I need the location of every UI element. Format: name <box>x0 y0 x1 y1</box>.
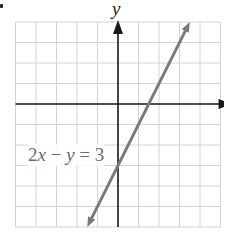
equation-coef: 2 <box>28 144 38 165</box>
axes <box>16 20 225 227</box>
equation-minus: − <box>46 144 66 165</box>
equation-label: 2x − y = 3 <box>28 144 104 166</box>
coordinate-plane <box>0 0 224 237</box>
line-arrow-bottom-icon <box>87 216 95 227</box>
equation-rhs: = 3 <box>75 144 105 165</box>
y-axis-label: y <box>112 0 120 20</box>
equation-var-x: x <box>38 144 46 165</box>
line-arrow-top-icon <box>182 22 190 33</box>
x-axis-arrow-icon <box>219 99 225 109</box>
equation-var-y: y <box>66 144 74 165</box>
